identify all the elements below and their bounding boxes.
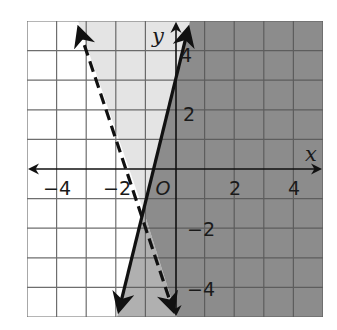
y-tick-label: −4 <box>187 278 215 300</box>
x-tick-label: 4 <box>288 177 300 199</box>
x-axis-label: x <box>305 142 317 166</box>
y-tick-label: −2 <box>187 218 215 240</box>
y-axis-label: y <box>151 24 165 48</box>
origin-label: O <box>156 177 171 199</box>
y-tick-label: 2 <box>183 103 195 125</box>
x-tick-label: 2 <box>229 177 241 199</box>
x-tick-label: −4 <box>43 177 71 199</box>
x-tick-label: −2 <box>103 177 131 199</box>
coordinate-graph: −4 −2 O 2 4 4 2 −2 −4 x y <box>0 0 337 330</box>
y-tick-label: 4 <box>180 44 192 66</box>
